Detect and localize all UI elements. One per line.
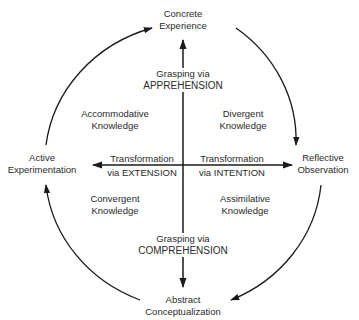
axis-label: APPREHENSION xyxy=(143,80,222,92)
quadrant-label: Convergent xyxy=(90,193,139,205)
pole-abstract-conceptualization: Abstract Conceptualization xyxy=(145,294,221,318)
pole-label: Active xyxy=(8,152,77,164)
pole-label: Reflective xyxy=(297,152,348,164)
axis-label: COMPREHENSION xyxy=(138,245,227,257)
axis-label-comprehension: Grasping via COMPREHENSION xyxy=(138,233,227,257)
pole-concrete-experience: Concrete Experience xyxy=(159,8,207,32)
experiential-learning-diagram: Concrete Experience Reflective Observati… xyxy=(0,0,359,320)
axis-label: via INTENTION xyxy=(199,166,265,180)
quadrant-accommodative-knowledge: Accommodative Knowledge xyxy=(81,108,149,132)
pole-label: Experimentation xyxy=(8,164,77,176)
quadrant-label: Accommodative xyxy=(81,108,149,120)
axis-label-apprehension: Grasping via APPREHENSION xyxy=(143,68,222,92)
axis-label: Grasping via xyxy=(138,233,227,245)
pole-label: Experience xyxy=(159,20,207,32)
axis-label-extension: Transformation via EXTENSION xyxy=(107,152,177,180)
pole-label: Conceptualization xyxy=(145,306,221,318)
axis-label-intention: Transformation via INTENTION xyxy=(199,152,265,180)
axis-label: Transformation xyxy=(199,152,265,166)
quadrant-label: Knowledge xyxy=(90,205,139,217)
quadrant-convergent-knowledge: Convergent Knowledge xyxy=(90,193,139,217)
pole-reflective-observation: Reflective Observation xyxy=(297,152,348,176)
pole-label: Abstract xyxy=(145,294,221,306)
quadrant-divergent-knowledge: Divergent Knowledge xyxy=(219,108,266,132)
axis-label: Transformation xyxy=(107,152,177,166)
pole-label: Concrete xyxy=(159,8,207,20)
pole-label: Observation xyxy=(297,164,348,176)
quadrant-assimilative-knowledge: Assimilative Knowledge xyxy=(220,193,270,217)
quadrant-label: Knowledge xyxy=(220,205,270,217)
quadrant-label: Knowledge xyxy=(81,120,149,132)
axis-label: via EXTENSION xyxy=(107,166,177,180)
quadrant-label: Assimilative xyxy=(220,193,270,205)
quadrant-label: Divergent xyxy=(219,108,266,120)
axis-label: Grasping via xyxy=(143,68,222,80)
quadrant-label: Knowledge xyxy=(219,120,266,132)
pole-active-experimentation: Active Experimentation xyxy=(8,152,77,176)
